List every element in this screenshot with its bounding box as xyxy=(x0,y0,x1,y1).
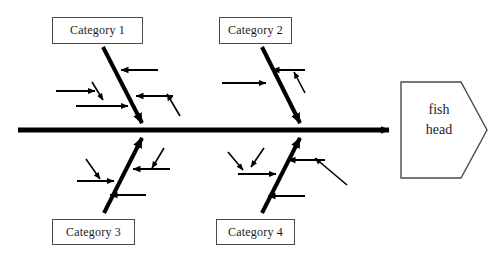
category-4-bone xyxy=(262,138,300,213)
category-label-text: Category 4 xyxy=(228,225,283,240)
category-1-bone-group xyxy=(56,47,180,123)
category-3-bone-group xyxy=(77,138,170,213)
category-1-bone xyxy=(103,47,142,123)
category-3-bone xyxy=(104,138,142,213)
category-2-bone xyxy=(262,47,300,123)
category-label-box-2[interactable]: Category 2 xyxy=(219,17,292,44)
category-label-text: Category 3 xyxy=(66,225,121,240)
fishbone-diagram: Category 1 Category 2 Category 3 Categor… xyxy=(0,0,499,256)
sub-cause-arrow xyxy=(294,72,305,93)
sub-cause-arrow xyxy=(251,148,264,167)
sub-cause-arrow xyxy=(315,158,347,185)
category-label-box-3[interactable]: Category 3 xyxy=(52,219,135,245)
category-4-bone-group xyxy=(228,138,347,213)
sub-cause-arrow xyxy=(167,94,180,116)
sub-cause-arrow xyxy=(152,148,164,168)
fish-head-shape xyxy=(401,82,487,178)
sub-cause-arrow xyxy=(228,152,243,170)
category-label-box-4[interactable]: Category 4 xyxy=(216,219,295,245)
category-2-bone-group xyxy=(222,47,305,123)
category-label-text: Category 2 xyxy=(228,23,283,38)
category-label-box-1[interactable]: Category 1 xyxy=(52,17,143,44)
sub-cause-arrow xyxy=(86,159,100,179)
category-label-text: Category 1 xyxy=(70,23,125,38)
